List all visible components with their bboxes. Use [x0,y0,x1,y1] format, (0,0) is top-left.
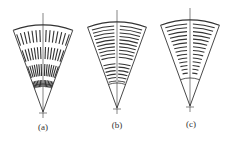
fan-c-arc-line [193,58,202,59]
fan-a-radial-dash [59,32,62,44]
panel-b-label: (b) [112,120,123,130]
fan-c-arc-line [178,58,187,59]
fan-b-arc-line [120,33,140,37]
fan-b-arc-line [119,47,136,50]
fan-a-radial-dash [34,48,36,60]
fan-c-arc-line [182,69,188,70]
fan-b-arc-line [97,43,115,46]
fan-c-arc-line [193,24,215,28]
fan-c-arc-line [193,62,201,63]
fan-b-arc-line [109,81,116,82]
fan-b-arc-line [119,40,137,43]
fan-a-radial-dash [46,64,47,76]
fan-c-arc-line [193,66,200,67]
fan-b-arc-line [107,74,116,76]
fan-a-radial-dash [28,31,30,43]
fan-c-arc-line [193,28,213,31]
fan-b-arc-line [98,47,115,50]
fan-b-arc-line [106,71,116,73]
fan-b-arc-line [103,64,115,66]
fan-a-radial-dash [50,48,52,60]
fan-c-arc-line [170,35,187,38]
fan-c-arc-line [167,28,187,31]
fan-c-arc-line [180,66,187,67]
fan-b-arc-line [119,43,137,46]
fan-a-radial-dash [39,80,40,87]
fan-b-arc-line [99,50,115,53]
fan-a-radial-dash [40,80,41,87]
fan-c-arc-line [193,47,206,49]
fan-b-arc-line [96,40,114,43]
fan-a-radial-dash [56,31,58,43]
fan-b-arc-line [119,64,131,66]
fan-c-arc-line [177,54,187,56]
fan-c-arc-line [193,32,212,35]
fan-a-left-edge [13,30,43,112]
fan-b-arc-line [118,71,128,73]
fan-a-radial-dash [53,48,55,60]
panel-c-label: (c) [186,119,196,129]
fan-c-arc-line [176,50,187,52]
fan-b-arc-line [119,54,134,57]
fan-c-arc-line [179,62,187,63]
fan-c-arc-line [192,69,198,70]
fan-a-radial-dash [52,31,54,43]
fan-a-radial-dash [48,47,49,59]
fan-c-arc-line [193,54,203,56]
fan-b-arc-line [118,81,125,82]
fan-b-arc-line [95,36,114,39]
fan-b-arc-line [119,50,135,53]
fan-c-arc-line [193,50,204,52]
fan-b-arc-line [119,57,133,59]
fan-b-arc-line [118,67,129,69]
fan-c-arc-line [193,39,209,42]
fan-a-right-edge [43,30,73,112]
fan-b-arc-line [101,57,115,59]
fan-c-arc-line [174,47,187,49]
fan-c-arc-line [165,24,187,28]
fan-a-radial-dash [36,30,37,42]
fan-c-arc-line [192,73,197,74]
fan-c-arc-line [171,39,187,42]
fan-diagram-figure: (a) (b) (c) [0,0,235,146]
fan-a-radial-dash [62,33,65,45]
fan-b-arc-line [120,36,139,39]
fan-a-radial-dash [37,47,38,59]
fan-b-arc-line [118,74,127,76]
fan-b-arc-line [108,78,116,79]
fan-a-radial-dash [28,49,31,61]
fan-a-radial-dash [49,30,50,42]
fan-a-radial-dash [55,49,58,61]
fan-a-radial-dash [45,80,46,87]
fan-b-arc-line [118,78,126,79]
fan-a-radial-dash [39,64,40,76]
fan-a-radial-dash [46,80,47,87]
fan-a-radial-dash [32,31,34,43]
fan-c-arc-line [183,73,188,74]
fan-a-radial-dash [24,32,27,44]
fan-b-arc-line [100,54,115,57]
panel-a-label: (a) [38,122,48,132]
fan-c-arc-line [173,43,187,45]
fan-c-arc-line [193,35,210,38]
fan-a-radial-dash [37,64,39,76]
fan-b-arc-line [105,67,116,69]
fan-a-radial-dash [20,33,23,45]
fan-c-arc-line [168,32,187,35]
fan-a-radial-dash [31,48,33,60]
fan-b-arc-line [94,33,114,37]
fan-a-radial-dash [48,64,50,76]
fan-c-arc-line [193,43,207,45]
